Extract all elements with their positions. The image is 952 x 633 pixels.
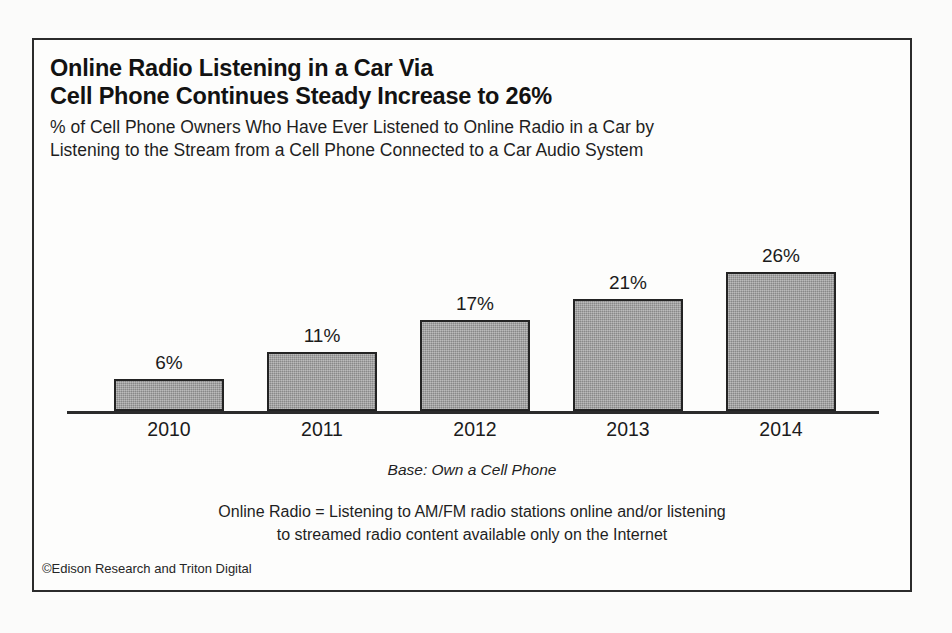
definition-note-line-2: to streamed radio content available only…	[34, 523, 910, 546]
x-axis-line	[67, 411, 879, 414]
bar-2010	[114, 379, 224, 411]
bar-2014	[726, 272, 836, 411]
bar-2011	[267, 352, 377, 411]
x-tick-2013: 2013	[568, 418, 688, 441]
definition-note: Online Radio = Listening to AM/FM radio …	[34, 500, 910, 546]
x-tick-2014: 2014	[721, 418, 841, 441]
bar-2012	[420, 320, 530, 411]
x-tick-2012: 2012	[415, 418, 535, 441]
copyright-notice: ©Edison Research and Triton Digital	[42, 561, 252, 576]
bar-value-2011: 11%	[262, 325, 382, 347]
plot-area: 6% 11% 17% 21% 26% 2010 2011 2012 2013 2…	[34, 40, 910, 590]
x-tick-2010: 2010	[109, 418, 229, 441]
definition-note-line-1: Online Radio = Listening to AM/FM radio …	[34, 500, 910, 523]
page-background: Online Radio Listening in a Car Via Cell…	[0, 0, 952, 633]
bar-value-2012: 17%	[415, 293, 535, 315]
bar-value-2014: 26%	[721, 245, 841, 267]
x-tick-2011: 2011	[262, 418, 382, 441]
bar-value-2010: 6%	[109, 352, 229, 374]
bar-2013	[573, 299, 683, 411]
bar-value-2013: 21%	[568, 272, 688, 294]
chart-frame: Online Radio Listening in a Car Via Cell…	[32, 38, 912, 592]
base-note: Base: Own a Cell Phone	[34, 461, 910, 479]
